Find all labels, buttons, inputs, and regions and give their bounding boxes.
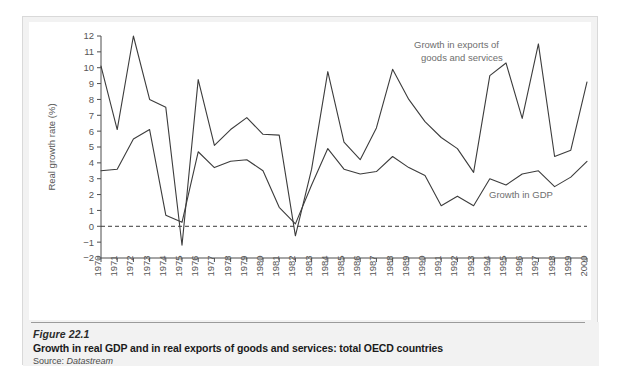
- x-tick-label: 1995: [497, 255, 508, 276]
- x-tick-label: 1971: [108, 255, 119, 276]
- x-tick-label: 1991: [432, 255, 443, 276]
- x-tick-label: 1996: [513, 255, 524, 276]
- data-series-group: [101, 36, 587, 245]
- x-tick-label: 1979: [238, 255, 249, 276]
- x-tick-label: 1984: [319, 255, 330, 276]
- x-tick-label: 1973: [141, 255, 152, 276]
- x-tick-label: 1998: [546, 255, 557, 276]
- source-name: Datastream: [67, 356, 114, 366]
- x-tick-label: 1989: [400, 255, 411, 276]
- gdp-annotation: Growth in GDP: [489, 189, 553, 200]
- x-axis: 1970197119721973197419751976197719781979…: [92, 255, 589, 276]
- y-tick-label: 0: [89, 221, 94, 232]
- x-tick-label: 1972: [124, 255, 135, 276]
- x-tick-label: 1980: [254, 255, 265, 276]
- y-tick-label: 6: [89, 126, 94, 137]
- source-prefix: Source:: [33, 356, 64, 366]
- x-tick-label: 1986: [351, 255, 362, 276]
- x-tick-label: 2000: [578, 255, 589, 276]
- caption-divider: [31, 322, 585, 323]
- y-tick-label: 8: [89, 94, 94, 105]
- x-tick-label: 1975: [173, 255, 184, 276]
- exports-annotation-line1: Growth in exports of: [414, 39, 499, 50]
- y-axis: 1211109876543210−1−2: [83, 30, 101, 263]
- exports-annotation-line2: goods and services: [421, 52, 503, 63]
- x-tick-label: 1982: [286, 255, 297, 276]
- y-tick-label: 2: [89, 189, 94, 200]
- x-tick-label: 1981: [270, 255, 281, 276]
- x-tick-label: 1977: [205, 255, 216, 276]
- x-tick-label: 1985: [335, 255, 346, 276]
- series-line-exports: [101, 36, 587, 245]
- y-tick-label: 11: [84, 46, 94, 57]
- figure-source: Source: Datastream: [33, 356, 113, 366]
- caption-band: Figure 22.1 Growth in real GDP and in re…: [23, 322, 599, 366]
- x-tick-label: 1993: [465, 255, 476, 276]
- x-tick-label: 1987: [367, 255, 378, 276]
- y-tick-label: −1: [83, 237, 94, 248]
- x-tick-label: 1978: [222, 255, 233, 276]
- figure-container: 1211109876543210−1−2 1970197119721973197…: [22, 16, 598, 365]
- y-tick-label: 10: [83, 62, 94, 73]
- x-tick-label: 1999: [562, 255, 573, 276]
- y-tick-label: 12: [83, 30, 94, 41]
- y-tick-label: 3: [89, 173, 94, 184]
- series-annotations: Growth in exports ofgoods and servicesGr…: [414, 39, 553, 200]
- y-tick-label: 5: [89, 141, 94, 152]
- chart-plot-card: 1211109876543210−1−2 1970197119721973197…: [29, 22, 591, 320]
- x-tick-label: 1992: [448, 255, 459, 276]
- y-tick-label: 1: [89, 205, 94, 216]
- x-tick-label: 1997: [529, 255, 540, 276]
- x-tick-label: 1976: [189, 255, 200, 276]
- line-chart: 1211109876543210−1−2 1970197119721973197…: [29, 22, 591, 320]
- y-axis-title-text: Real growth rate (%): [46, 103, 57, 190]
- y-tick-label: 4: [89, 157, 94, 168]
- x-tick-label: 1974: [157, 255, 168, 276]
- x-tick-label: 1983: [303, 255, 314, 276]
- y-tick-label: 9: [89, 78, 94, 89]
- y-axis-title: Real growth rate (%): [46, 103, 57, 190]
- figure-title: Growth in real GDP and in real exports o…: [33, 342, 443, 354]
- x-tick-label: 1988: [384, 255, 395, 276]
- y-tick-label: 7: [89, 110, 94, 121]
- figure-number: Figure 22.1: [33, 328, 90, 340]
- x-tick-label: 1990: [416, 255, 427, 276]
- x-tick-label: 1970: [92, 255, 103, 276]
- x-tick-label: 1994: [481, 255, 492, 276]
